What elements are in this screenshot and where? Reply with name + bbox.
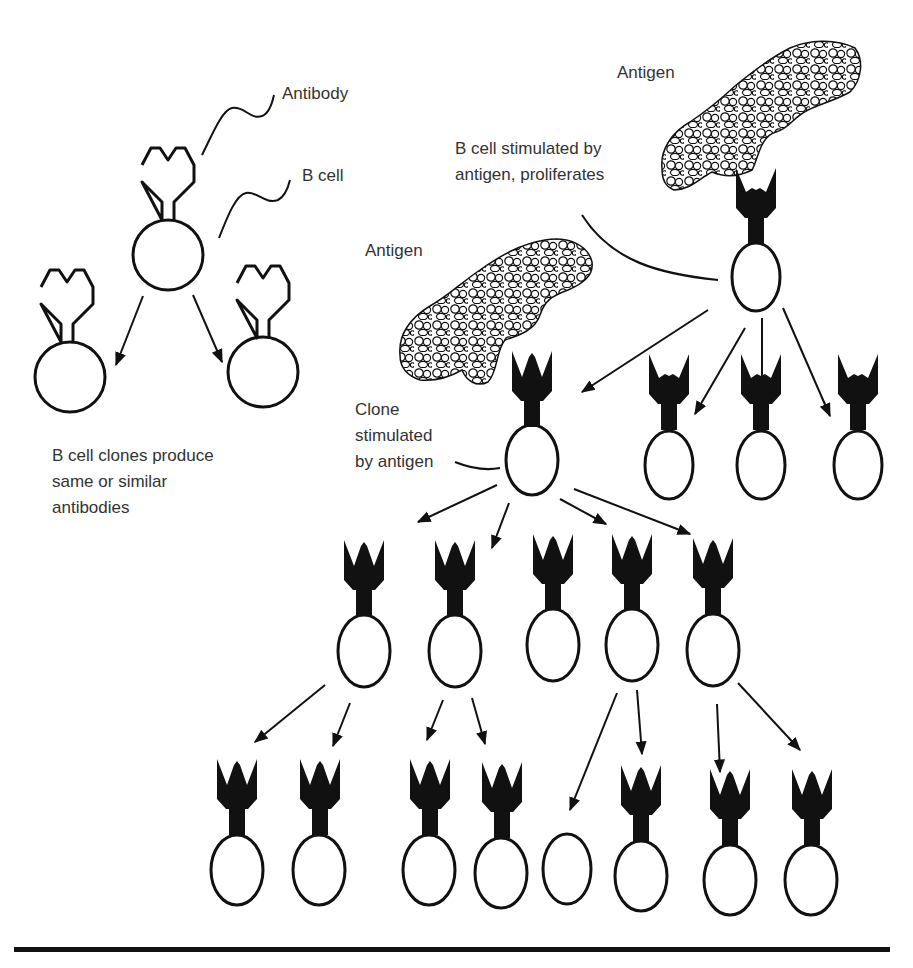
arrow-row2-a	[695, 328, 745, 414]
stimulated-proliferates-caption: B cell stimulated by antigen, proliferat…	[455, 136, 604, 188]
antibody-label: Antibody	[282, 81, 348, 107]
bcell-leader-line	[219, 180, 290, 238]
caption-line: same or similar	[52, 469, 214, 495]
arrow-r4-6	[637, 690, 642, 754]
row2-cell	[834, 354, 882, 499]
b-cell-label: B cell	[302, 163, 344, 189]
antigen-label-top: Antigen	[617, 60, 675, 86]
clone-stimulated-caption: Clone stimulated by antigen	[355, 397, 433, 475]
caption-line: B cell clones produce	[52, 443, 214, 469]
arrow-to-right-clone	[193, 295, 222, 362]
left-panel	[35, 95, 298, 412]
row2-cells	[506, 351, 882, 499]
row4-cell	[475, 762, 527, 908]
clone-stimulated-cell	[506, 351, 558, 495]
row3-cell	[527, 534, 579, 681]
caption-line: B cell stimulated by	[455, 136, 604, 162]
stimulated-leader-line	[582, 215, 718, 280]
arrow-r3-3	[560, 499, 606, 524]
antigen-cloud-lower	[400, 239, 592, 384]
arrow-r4-4	[472, 698, 485, 744]
row4-cells	[211, 759, 837, 915]
caption-line: by antigen	[355, 449, 433, 475]
row3-cell	[338, 540, 390, 687]
arrow-r4-2	[333, 703, 350, 746]
arrow-to-clone	[582, 310, 708, 392]
clone-b-cell-left	[35, 270, 105, 412]
arrow-r3-1	[418, 485, 497, 522]
arrow-r4-7	[717, 704, 720, 772]
row4-cell	[615, 765, 667, 911]
caption-line: antigen, proliferates	[455, 162, 604, 188]
caption-line: antibodies	[52, 495, 214, 521]
arrow-r3-4	[574, 489, 690, 534]
stimulated-b-cell	[732, 168, 780, 311]
antigen-cloud-top	[662, 41, 861, 190]
arrow-r4-3	[427, 700, 443, 740]
arrow-r4-1	[255, 685, 325, 742]
clone-b-cell-right	[228, 266, 298, 407]
row3-cell	[606, 534, 658, 681]
caption-line: stimulated	[355, 423, 433, 449]
row4-cell	[211, 759, 263, 905]
arrow-r4-5	[570, 693, 617, 810]
row3-cell	[429, 540, 481, 687]
row3-cell	[687, 538, 739, 686]
arrow-to-left-clone	[116, 296, 143, 365]
caption-line: Clone	[355, 397, 433, 423]
row4-cell	[403, 759, 455, 905]
antigen-label-lower: Antigen	[365, 238, 423, 264]
clone-stimulated-leader-line	[455, 462, 500, 469]
bottom-rule	[14, 947, 890, 952]
arrow-r4-8	[738, 683, 800, 750]
arrow-r3-2	[492, 503, 509, 548]
row4-cell	[704, 769, 756, 915]
antibody-leader-line	[202, 95, 274, 155]
clones-produce-caption: B cell clones produce same or similar an…	[52, 443, 214, 521]
row4-cell	[785, 769, 837, 915]
parent-b-cell	[133, 148, 203, 290]
row2-cell	[645, 354, 693, 499]
row4-cell	[293, 759, 345, 905]
row3-cells	[338, 534, 739, 687]
row4-cell-no-antibody	[543, 834, 591, 904]
arrow-row2-c	[783, 308, 830, 416]
